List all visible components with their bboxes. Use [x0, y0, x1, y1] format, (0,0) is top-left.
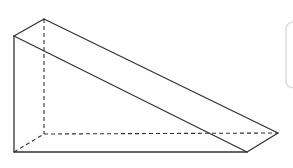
edge-front-hypotenuse [14, 36, 247, 152]
edge-top-depth [14, 19, 44, 36]
side-panel [286, 22, 293, 88]
hidden-edge-bottom-depth [14, 134, 44, 152]
prism-diagram [0, 0, 293, 168]
edge-right-depth [247, 133, 278, 152]
hidden-edge-back-bottom [44, 133, 278, 134]
edge-back-hypotenuse [44, 19, 278, 133]
